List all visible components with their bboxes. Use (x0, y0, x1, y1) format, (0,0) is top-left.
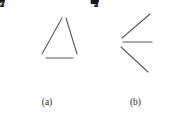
edge-1-7 (121, 47, 148, 72)
edge-weight-1-7: 6 (92, 0, 97, 5)
panel-b-caption: (b) (94, 97, 177, 107)
edge-1-4 (66, 18, 77, 54)
figure-container: ♣ 1 ♦ 2 ♥ 4 ♦ 7 3 5 6 (a) ♣ 1 ♦ (0, 0, 177, 113)
edge-weight-2-4: 6 (0, 0, 2, 5)
edge-1-2 (42, 18, 62, 54)
graph-panel-a: ♣ 1 ♦ 2 ♥ 4 ♦ 7 3 5 6 (a) (0, 0, 94, 113)
edge-1-2 (122, 14, 150, 38)
graph-panel-b: ♣ 1 ♦ 2 ♥ 4 ■ 7 3 5 6 (b) (94, 0, 177, 113)
panel-a-caption: (a) (0, 97, 94, 107)
